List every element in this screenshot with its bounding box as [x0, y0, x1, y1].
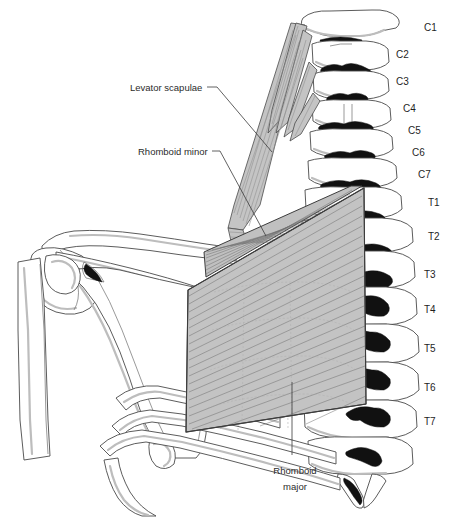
cervical-spine — [301, 10, 402, 226]
vertebra-label-c1: C1 — [424, 22, 437, 33]
vertebra-label-t5: T5 — [424, 343, 436, 354]
vertebra-label-c5: C5 — [408, 125, 421, 136]
label-rhomboid-minor: Rhomboid minor — [138, 146, 208, 157]
vertebra-label-t7: T7 — [424, 416, 436, 427]
muscle-label-levator-scapulae: Levator scapulae — [130, 82, 202, 93]
anatomy-illustration: Levator scapulae Rhomboid minor Rhomboid… — [0, 0, 463, 517]
vertebra-label-t6: T6 — [424, 382, 436, 393]
muscle-label-rhomboid-minor: Rhomboid minor — [138, 146, 208, 157]
vertebra-label-c3: C3 — [396, 76, 409, 87]
vertebra-label-c2: C2 — [396, 49, 409, 60]
vertebra-label-c6: C6 — [412, 147, 425, 158]
vertebra-label-c7: C7 — [418, 169, 431, 180]
vertebra-label-c4: C4 — [403, 103, 416, 114]
vertebra-label-t3: T3 — [424, 269, 436, 280]
vertebra-label-t1: T1 — [428, 197, 440, 208]
label-rhomboid-major-line1: Rhomboid — [273, 465, 316, 476]
label-levator-scapulae: Levator scapulae — [130, 82, 202, 93]
vertebra-label-t4: T4 — [424, 304, 436, 315]
vertebra-label-t2: T2 — [428, 231, 440, 242]
label-rhomboid-major-line2: major — [283, 481, 307, 492]
